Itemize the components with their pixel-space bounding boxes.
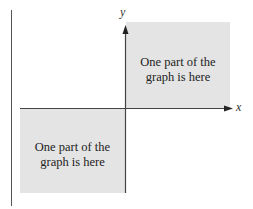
axes [0,0,253,209]
y-axis-arrow-icon [123,25,129,34]
x-axis-arrow-icon [224,106,233,112]
y-axis-label: y [120,5,125,20]
x-axis-label: x [236,100,241,115]
